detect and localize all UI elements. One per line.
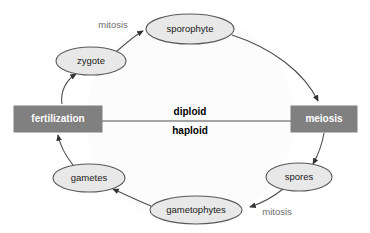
cycle-svg: fertilization meiosis sporophyte zygote … [0, 0, 370, 233]
node-meiosis[interactable]: meiosis [291, 106, 357, 132]
node-gametes[interactable]: gametes [53, 164, 125, 192]
node-gametophytes[interactable]: gametophytes [150, 196, 242, 224]
arrow-meiosis-to-spores [313, 133, 324, 164]
zygote-label: zygote [77, 55, 105, 66]
arrow-fertilization-to-zygote [62, 74, 76, 104]
life-cycle-diagram: fertilization meiosis sporophyte zygote … [0, 0, 370, 233]
meiosis-box-label: meiosis [305, 113, 343, 124]
sporophyte-label: sporophyte [166, 23, 213, 34]
arrow-gametes-to-fertilization [58, 135, 73, 165]
node-sporophyte[interactable]: sporophyte [146, 14, 234, 44]
gametophytes-label: gametophytes [166, 204, 226, 215]
gametes-label: gametes [71, 172, 108, 183]
cycle-interior-disc [86, 15, 294, 223]
mitosis-label-bottom: mitosis [262, 206, 292, 217]
fertilization-box-label: fertilization [31, 113, 84, 124]
spores-label: spores [285, 171, 314, 182]
diploid-label: diploid [174, 106, 207, 117]
node-zygote[interactable]: zygote [56, 47, 126, 75]
node-fertilization[interactable]: fertilization [14, 106, 102, 132]
mitosis-label-top: mitosis [98, 19, 128, 30]
haploid-label: haploid [172, 125, 208, 136]
node-spores[interactable]: spores [266, 163, 332, 191]
